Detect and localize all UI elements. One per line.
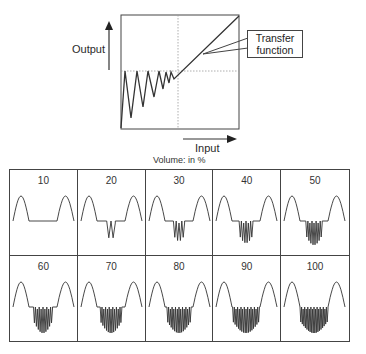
waveform-icon (78, 256, 146, 342)
volume-panel: 30 (146, 170, 214, 256)
volume-panel: 80 (146, 256, 214, 342)
waveform-icon (10, 256, 78, 342)
waveform-icon (10, 170, 78, 256)
volume-panel: 60 (10, 256, 78, 342)
callout-line-1: Transfer (250, 32, 300, 44)
input-axis-label: Input (195, 142, 219, 154)
waveform-icon (213, 170, 281, 256)
waveform-icon (281, 170, 349, 256)
output-arrow-icon (105, 21, 113, 30)
waveform-icon (146, 170, 214, 256)
transfer-function-plot (0, 0, 366, 170)
input-arrow-icon (227, 135, 237, 143)
volume-panel: 40 (213, 170, 281, 256)
waveform-icon (281, 256, 349, 342)
callout-line-2: function (250, 44, 300, 56)
waveform-icon (146, 256, 214, 342)
transfer-function-callout: Transfer function (247, 30, 303, 58)
volume-panel: 20 (78, 170, 146, 256)
waveform-icon (213, 256, 281, 342)
volume-panel: 100 (281, 256, 349, 342)
output-axis-label: Output (72, 43, 105, 55)
volume-panel: 90 (213, 256, 281, 342)
plot-frame (121, 15, 239, 129)
volume-panel: 50 (281, 170, 349, 256)
callout-pointer (203, 38, 248, 54)
transfer-curve (121, 16, 239, 128)
volume-caption: Volume: in % (153, 155, 206, 165)
volume-panel: 10 (10, 170, 78, 256)
volume-panel: 70 (78, 256, 146, 342)
volume-waveform-grid: 10 20 30 40 50 60 70 80 90 100 (9, 169, 350, 342)
waveform-icon (78, 170, 146, 256)
